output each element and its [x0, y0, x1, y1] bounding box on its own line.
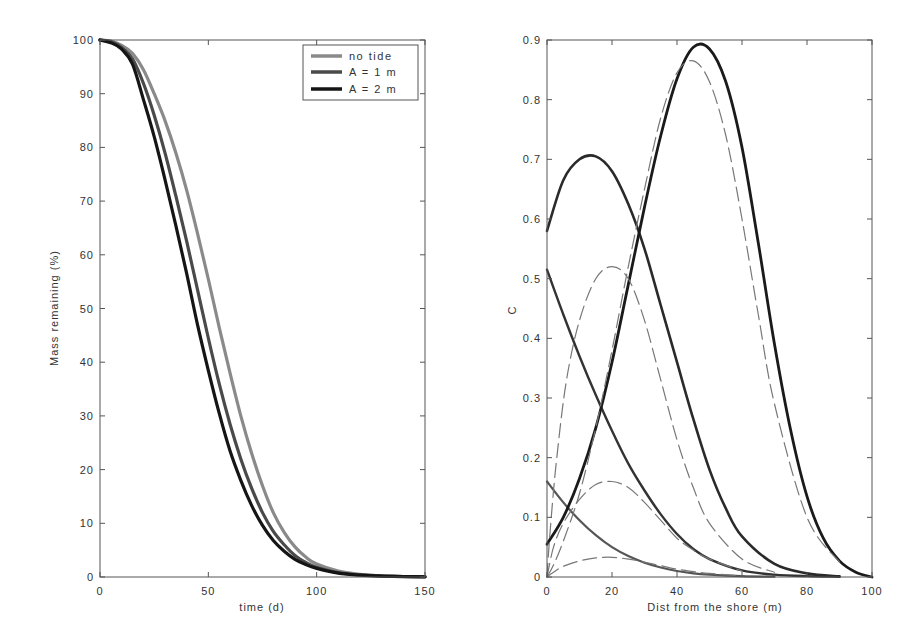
concentration-chart: 02040608010000.10.20.30.40.50.60.70.80.9… [506, 34, 883, 613]
series-line-dashed-3 [547, 267, 775, 577]
x-tick-label: 150 [414, 585, 435, 597]
x-tick-label: 0 [543, 585, 550, 597]
series-line-solid-1 [547, 482, 775, 577]
x-tick-label: 40 [670, 585, 684, 597]
y-tick-label: 70 [80, 195, 94, 207]
x-tick-label: 100 [861, 585, 882, 597]
y-tick-label: 0.3 [523, 392, 541, 404]
y-tick-label: 0.4 [523, 332, 541, 344]
y-tick-label: 0.7 [523, 153, 541, 165]
x-tick-label: 0 [96, 585, 103, 597]
series-line-dashed-4 [547, 61, 840, 577]
x-tick-label: 20 [605, 585, 619, 597]
y-tick-label: 0.6 [523, 213, 541, 225]
x-tick-label: 50 [201, 585, 215, 597]
mass-remaining-chart: 0501001500102030405060708090100 time (d)… [48, 34, 436, 613]
mass-series-group [100, 40, 425, 577]
y-tick-label: 10 [80, 517, 94, 529]
y-tick-label: 0.5 [523, 273, 541, 285]
right-x-axis-label: Dist from the shore (m) [647, 601, 782, 613]
figure: 0501001500102030405060708090100 time (d)… [0, 0, 921, 643]
series-line-solid-4 [547, 44, 872, 577]
y-tick-label: 50 [80, 303, 94, 315]
y-tick-label: 100 [73, 34, 94, 46]
y-tick-label: 60 [80, 249, 94, 261]
x-tick-label: 60 [735, 585, 749, 597]
y-tick-label: 0.2 [523, 452, 541, 464]
y-tick-label: 40 [80, 356, 94, 368]
x-tick-label: 80 [800, 585, 814, 597]
left-y-axis-label: Mass remaining (%) [48, 250, 60, 366]
x-tick-label: 100 [306, 585, 327, 597]
y-tick-label: 20 [80, 464, 94, 476]
series-line-a-2-m [100, 40, 425, 577]
y-tick-label: 30 [80, 410, 94, 422]
legend: no tide A = 1 m A = 2 m [303, 45, 418, 100]
legend-label-a2: A = 2 m [349, 83, 397, 95]
left-x-axis-label: time (d) [239, 601, 284, 613]
y-tick-label: 0.1 [523, 511, 541, 523]
y-tick-label: 0 [87, 571, 94, 583]
legend-label-a1: A = 1 m [349, 66, 397, 78]
right-plot-frame [547, 40, 872, 577]
y-tick-label: 90 [80, 88, 94, 100]
y-tick-label: 0.9 [523, 34, 541, 46]
series-line-solid-3 [547, 155, 840, 576]
y-tick-label: 0 [534, 571, 541, 583]
y-tick-label: 80 [80, 141, 94, 153]
right-y-axis-label: C [506, 306, 518, 315]
legend-label-no-tide: no tide [349, 50, 393, 62]
y-tick-label: 0.8 [523, 94, 541, 106]
concentration-series-group [547, 44, 872, 577]
